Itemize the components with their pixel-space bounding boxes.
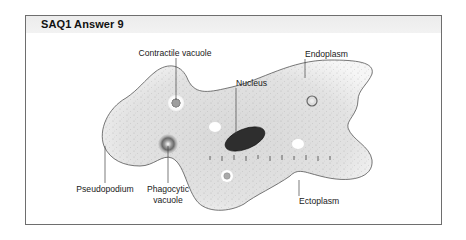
clear-vacuole-1 xyxy=(209,122,221,132)
label-endoplasm: Endoplasm xyxy=(305,49,348,59)
label-pseudopodium: Pseudopodium xyxy=(76,184,133,194)
label-ectoplasm: Ectoplasm xyxy=(299,196,339,206)
label-contractile-vacuole: Contractile vacuole xyxy=(138,48,211,58)
label-nucleus: Nucleus xyxy=(236,78,267,88)
amoeba-diagram: Contractile vacuole Nucleus Endoplasm Ps… xyxy=(0,0,466,240)
clear-vacuole-2 xyxy=(292,139,304,149)
label-phagocytic-vacuole-line2: vacuole xyxy=(153,195,183,205)
label-phagocytic-vacuole-line1: Phagocytic xyxy=(147,184,190,194)
